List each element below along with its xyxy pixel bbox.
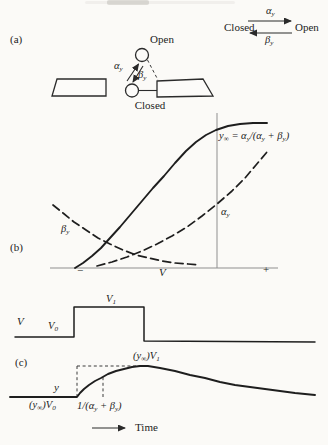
alpha-curve-label: αy [221,206,230,218]
panel-c-label: (c) [15,356,27,368]
pulse-v0-label: V0 [48,320,58,332]
pulse-v-label: V [17,315,24,327]
peak-value-label: (y∞)V1 [133,350,160,362]
membrane-right-segment [157,79,213,97]
figure-drawing [0,0,328,445]
time-constant-label: 1/(αy + βy) [77,400,122,412]
gate-closed-particle [126,84,139,97]
beta-rate-curve [53,205,200,265]
panel-a-label: (a) [10,33,22,45]
b-axis-v: V [159,266,166,278]
beta-rate-label-a: βy [138,69,146,81]
membrane-left-segment [52,79,106,96]
scheme-closed-label: Closed [224,21,255,33]
y-infinity-curve [75,123,267,268]
y-trace-label: y [54,381,59,393]
time-axis-label: Time [135,421,158,433]
figure: (a) Open αy βy Closed Closed Open αy βy … [0,0,328,445]
scheme-open-label: Open [295,21,319,33]
scheme-beta-label: βy [265,34,273,46]
pulse-v1-label: V1 [106,293,116,305]
voltage-pulse-trace [15,307,315,342]
alpha-transition-arrow [127,64,139,81]
baseline-value-label: (y∞)V0 [29,399,56,411]
panel-b-label: (b) [10,241,23,253]
y-infinity-equation: y∞ = αy/(αy + βy) [219,130,289,142]
b-axis-minus: − [77,264,83,276]
closed-state-label: Closed [135,99,166,111]
gate-open-particle [136,49,149,62]
gate-open-link-dashed [148,60,159,80]
beta-curve-label: βy [61,223,69,235]
b-axis-plus: + [263,263,269,275]
open-state-label: Open [150,33,174,45]
alpha-rate-label-a: αy [114,60,123,72]
scheme-alpha-label: αy [266,5,275,17]
